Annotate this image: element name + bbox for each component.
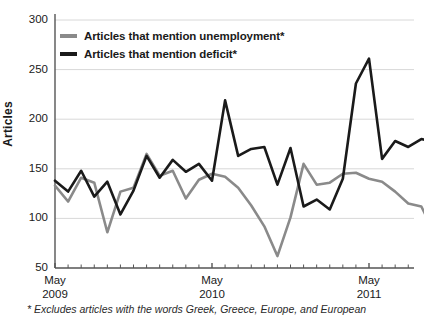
legend-item-unemployment: Articles that mention unemployment* — [60, 27, 284, 45]
legend-item-deficit: Articles that mention deficit* — [60, 45, 284, 63]
chart-figure: Articles 30025020015010050 May2009May201… — [0, 0, 424, 333]
series-line-unemployment — [55, 154, 424, 258]
x-axis-tick-label: May2011 — [339, 274, 399, 301]
y-axis-tick-label: 50 — [14, 261, 48, 273]
chart-footnote: * Excludes articles with the words Greek… — [27, 303, 366, 315]
x-tick-month: May — [182, 274, 242, 288]
legend-label-deficit: Articles that mention deficit* — [84, 48, 237, 60]
y-axis-tick-label: 100 — [14, 211, 48, 223]
legend-swatch-deficit — [60, 52, 77, 56]
x-tick-year: 2009 — [25, 288, 85, 302]
y-axis-tick-label: 150 — [14, 162, 48, 174]
legend-label-unemployment: Articles that mention unemployment* — [84, 30, 284, 42]
x-axis-ticks — [55, 263, 408, 268]
chart-legend: Articles that mention unemployment* Arti… — [60, 27, 284, 63]
x-tick-year: 2010 — [182, 288, 242, 302]
x-axis-tick-label: May2009 — [25, 274, 85, 301]
y-axis-tick-label: 200 — [14, 112, 48, 124]
legend-swatch-unemployment — [60, 34, 77, 38]
x-tick-month: May — [339, 274, 399, 288]
y-axis-tick-label: 250 — [14, 63, 48, 75]
x-axis-tick-label: May2010 — [182, 274, 242, 301]
y-axis-title: Articles — [1, 101, 15, 147]
x-tick-month: May — [25, 274, 85, 288]
x-tick-year: 2011 — [339, 288, 399, 302]
y-axis-tick-label: 300 — [14, 13, 48, 25]
y-axis-title-wrap: Articles — [16, 0, 17, 290]
